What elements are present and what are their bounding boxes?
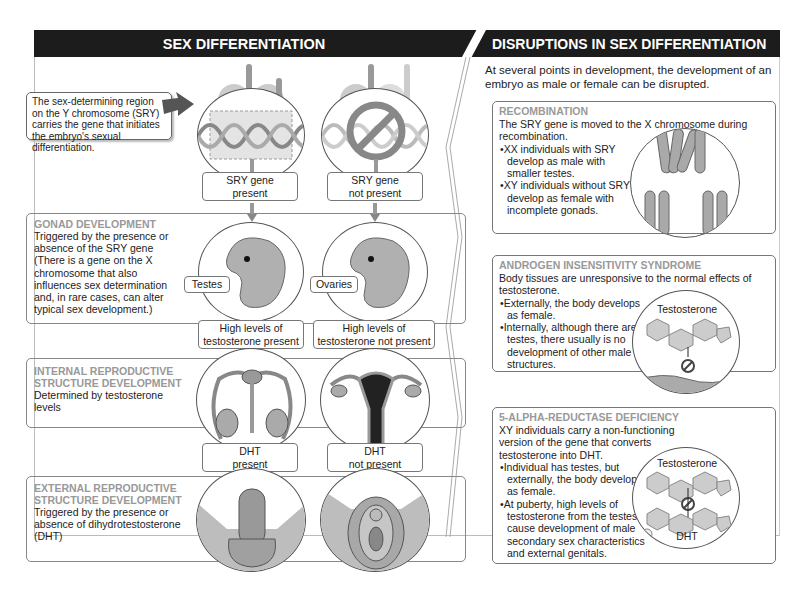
pill-line: Ovaries (316, 278, 352, 290)
dht-label: DHT (633, 530, 740, 542)
pill-line: testosterone not present (316, 335, 432, 348)
male-internal-organs-icon (197, 349, 306, 452)
bullet: Externally, the body develops as female. (499, 297, 649, 322)
male-dna-circle (197, 88, 305, 182)
sry-present-label: SRY genepresent (202, 172, 298, 201)
ais-circle: Testosterone (632, 290, 740, 394)
female-internal-organs-icon (321, 349, 430, 452)
header-right-text: DISRUPTIONS IN SEX DIFFERENTIATION (492, 36, 766, 52)
pill-line: DHT (330, 445, 420, 458)
bullet: At puberty, high levels of testosterone … (499, 498, 649, 559)
external-title: EXTERNAL REPRODUCTIVE STRUCTURE DEVELOPM… (34, 482, 184, 506)
header-sex-differentiation: SEX DIFFERENTIATION (34, 30, 474, 57)
male-external-genitals-icon (197, 469, 306, 572)
female-external-genitals-icon (321, 469, 430, 572)
callout-arrow-icon (160, 92, 196, 122)
testosterone-label: Testosterone (633, 457, 740, 469)
testosterone-absent-label: High levels oftestosterone not present (313, 320, 435, 349)
chromosome-recombination-icon (631, 129, 740, 238)
bullet: XY individuals without SRY develop as fe… (499, 179, 634, 216)
gonad-stage-label: GONAD DEVELOPMENT Triggered by the prese… (34, 218, 174, 315)
female-dna-circle (321, 88, 429, 182)
gonad-title: GONAD DEVELOPMENT (34, 218, 174, 230)
pill-line: SRY gene (330, 174, 420, 187)
internal-stage-label: INTERNAL REPRODUCTIVE STRUCTURE DEVELOPM… (34, 365, 184, 413)
recombination-title: RECOMBINATION (499, 105, 769, 118)
female-internal-circle (320, 348, 430, 452)
down-arrow-icon (247, 214, 257, 222)
female-external-circle (320, 468, 430, 572)
pill-line: High levels of (201, 322, 301, 335)
pill-line: SRY gene (205, 174, 295, 187)
testes-label: Testes (184, 276, 230, 293)
sry-callout: The sex-determining region on the Y chro… (26, 92, 172, 140)
disruptions-intro: At several points in development, the de… (485, 63, 777, 91)
ovaries-label: Ovaries (310, 276, 358, 293)
external-text: Triggered by the presence or absence of … (34, 506, 184, 543)
5ard-title: 5-ALPHA-REDUCTASE DEFICIENCY (499, 411, 769, 424)
ais-text: Body tissues are unresponsive to the nor… (499, 272, 769, 297)
pill-line: testosterone present (201, 335, 301, 348)
male-embryo-circle (198, 222, 304, 322)
down-arrow-icon (370, 214, 380, 222)
external-stage-label: EXTERNAL REPRODUCTIVE STRUCTURE DEVELOPM… (34, 482, 184, 543)
testosterone-present-label: High levels oftestosterone present (198, 320, 304, 349)
pill-line: DHT (205, 445, 295, 458)
male-internal-circle (196, 348, 306, 452)
pill-line: present (205, 187, 295, 200)
recombination-text: The SRY gene is moved to the X chromosom… (499, 118, 769, 143)
embryo-icon (199, 223, 304, 322)
5ard-circle: Testosterone DHT (632, 447, 740, 549)
ais-title: ANDROGEN INSENSITIVITY SYNDROME (499, 259, 769, 272)
recombination-bullets: XX individuals with SRY develop as male … (499, 143, 634, 217)
header-disruptions: DISRUPTIONS IN SEX DIFFERENTIATION (474, 30, 780, 57)
pill-line: not present (330, 187, 420, 200)
header-left-text: SEX DIFFERENTIATION (163, 36, 325, 52)
no-sry-icon (322, 89, 429, 182)
5ard-bullets: Individual has testes, but externally, t… (499, 461, 649, 559)
bullet: Internally, although there are testes, t… (499, 321, 649, 370)
dna-helix-icon (198, 89, 305, 182)
embryo-icon (323, 223, 428, 322)
recombination-circle (630, 128, 740, 238)
testosterone-label: Testosterone (633, 303, 740, 315)
bullet: Individual has testes, but externally, t… (499, 461, 649, 498)
female-embryo-circle (322, 222, 428, 322)
pill-line: High levels of (316, 322, 432, 335)
male-external-circle (196, 468, 306, 572)
ais-bullets: Externally, the body develops as female.… (499, 297, 649, 371)
sry-absent-label: SRY genenot present (327, 172, 423, 201)
internal-title: INTERNAL REPRODUCTIVE STRUCTURE DEVELOPM… (34, 365, 184, 389)
internal-text: Determined by testosterone levels (34, 389, 184, 413)
bullet: XX individuals with SRY develop as male … (499, 143, 634, 180)
gonad-text: Triggered by the presence or absence of … (34, 230, 174, 315)
pill-line: Testes (192, 278, 222, 290)
